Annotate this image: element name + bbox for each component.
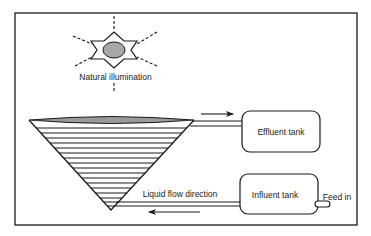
illumination-label: Natural illumination [79, 72, 152, 82]
influent-tank-label: Influent tank [252, 190, 299, 200]
influent-pipe [114, 202, 240, 206]
cone-top-surface [29, 117, 194, 124]
flow-direction-label: Liquid flow direction [143, 189, 218, 199]
effluent-tank-label: Effluent tank [257, 127, 305, 137]
effluent-pipe [190, 121, 242, 126]
diagram-canvas: Natural illumination [0, 0, 371, 236]
feed-in-label: Feed in [323, 192, 352, 202]
